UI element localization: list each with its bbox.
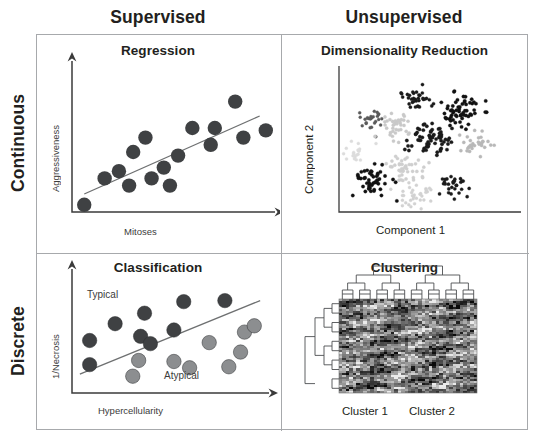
- classification-scatter-plot: [36, 253, 280, 430]
- regression-x-axis-label: Mitoses: [124, 226, 157, 237]
- column-header-supervised: Supervised: [36, 4, 280, 30]
- cluster-2-label: Cluster 2: [409, 405, 455, 417]
- dimred-y-axis-label: Component 2: [303, 94, 315, 194]
- quadrant-classification: Classification 1/Necrosis Hypercellulari…: [36, 253, 280, 430]
- cluster-1-label: Cluster 1: [342, 405, 388, 417]
- row-header-continuous: Continuous: [0, 34, 36, 252]
- classification-x-axis-label: Hypercellularity: [98, 405, 163, 416]
- quadrant-regression: Regression Aggressiveness Mitoses: [36, 34, 280, 252]
- regression-scatter-plot: [36, 34, 280, 252]
- supervised-unsupervised-figure: Supervised Unsupervised Continuous Discr…: [0, 0, 541, 441]
- row-header-discrete: Discrete: [0, 252, 36, 430]
- classification-y-axis-label: 1/Necrosis: [50, 301, 61, 379]
- dimensionality-reduction-scatter-plot: [281, 34, 528, 252]
- regression-y-axis-label: Aggressiveness: [50, 86, 61, 192]
- quadrant-clustering: Clustering Cluster 1 Cluster 2: [281, 253, 528, 430]
- dimred-x-axis-label: Component 1: [376, 224, 445, 236]
- clustering-heatmap: [281, 253, 528, 430]
- column-header-unsupervised: Unsupervised: [280, 4, 528, 30]
- quadrant-dimensionality-reduction: Dimensionality Reduction Component 2 Com…: [281, 34, 528, 252]
- classification-annotation-atypical: Atypical: [164, 370, 199, 381]
- classification-annotation-typical: Typical: [87, 289, 118, 300]
